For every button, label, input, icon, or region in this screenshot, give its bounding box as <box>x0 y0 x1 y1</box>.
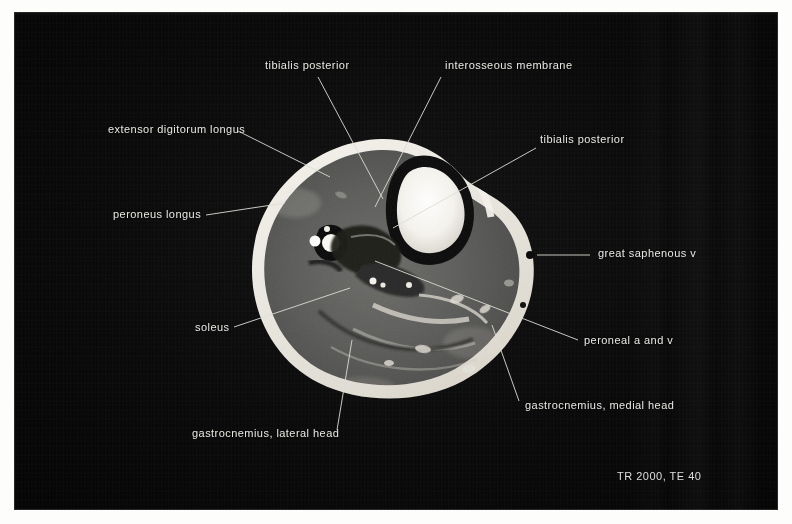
label-gastrocnemius-lateral-head: gastrocnemius, lateral head <box>192 427 339 439</box>
scan-parameters-annotation: TR 2000, TE 40 <box>617 470 701 482</box>
label-extensor-digitorum-longus: extensor digitorum longus <box>108 123 245 135</box>
film-banding-artifact <box>628 12 778 510</box>
scan-noise <box>223 133 558 403</box>
label-great-saphenous-v: great saphenous v <box>598 247 696 259</box>
label-tibialis-posterior-top: tibialis posterior <box>265 59 350 71</box>
label-interosseous-membrane: interosseous membrane <box>445 59 572 71</box>
great-saphenous-vein-structure <box>526 251 534 259</box>
figure-page: tibialis posterior interosseous membrane… <box>0 0 792 524</box>
label-gastrocnemius-medial-head: gastrocnemius, medial head <box>525 399 674 411</box>
label-peroneal-a-and-v: peroneal a and v <box>584 334 673 346</box>
small-vein-structure <box>520 302 526 308</box>
mri-axial-leg-cross-section <box>223 133 558 403</box>
label-tibialis-posterior-right: tibialis posterior <box>540 133 625 145</box>
label-peroneus-longus: peroneus longus <box>113 208 201 220</box>
label-soleus: soleus <box>195 321 230 333</box>
